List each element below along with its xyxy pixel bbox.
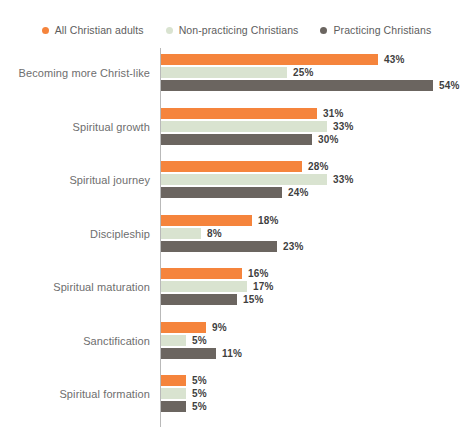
bar-row-non-practicing-christians: 5% — [161, 335, 473, 346]
bar-row-practicing-christians: 23% — [161, 241, 473, 252]
bar-row-non-practicing-christians: 8% — [161, 228, 473, 239]
bar-all-christian-adults[interactable] — [161, 375, 186, 386]
bar-group-spiritual-growth: Spiritual growth31%33%30% — [0, 106, 473, 148]
bar-group-spiritual-maturation: Spiritual maturation16%17%15% — [0, 266, 473, 308]
bar-group-bars: 5%5%5% — [161, 373, 473, 415]
bar-non-practicing-christians[interactable] — [161, 228, 201, 239]
bar-value-label: 33% — [333, 173, 354, 186]
category-label: Sanctification — [0, 320, 150, 362]
bar-value-label: 23% — [283, 240, 304, 253]
bar-row-all-christian-adults: 28% — [161, 161, 473, 172]
bar-row-non-practicing-christians: 33% — [161, 174, 473, 185]
bar-value-label: 18% — [258, 214, 279, 227]
legend-item-non-practicing-christians[interactable]: Non-practicing Christians — [166, 24, 299, 36]
bar-group-bars: 9%5%11% — [161, 320, 473, 362]
legend-dot-icon — [42, 27, 49, 34]
bar-value-label: 5% — [192, 387, 207, 400]
legend-item-label: Practicing Christians — [333, 24, 431, 36]
legend-item-practicing-christians[interactable]: Practicing Christians — [320, 24, 431, 36]
category-label: Spiritual journey — [0, 159, 150, 201]
bar-group-bars: 16%17%15% — [161, 266, 473, 308]
bar-value-label: 16% — [248, 267, 269, 280]
bar-group-sanctification: Sanctification9%5%11% — [0, 320, 473, 362]
legend-item-label: All Christian adults — [55, 24, 144, 36]
bar-value-label: 5% — [192, 334, 207, 347]
bar-row-all-christian-adults: 31% — [161, 108, 473, 119]
category-label: Spiritual formation — [0, 373, 150, 415]
bar-group-bars: 43%25%54% — [161, 52, 473, 94]
bar-value-label: 31% — [323, 107, 344, 120]
bar-value-label: 15% — [243, 293, 264, 306]
bar-non-practicing-christians[interactable] — [161, 67, 287, 78]
bar-practicing-christians[interactable] — [161, 241, 277, 252]
bar-row-all-christian-adults: 43% — [161, 54, 473, 65]
bar-all-christian-adults[interactable] — [161, 54, 378, 65]
bar-practicing-christians[interactable] — [161, 401, 186, 412]
bar-value-label: 25% — [293, 66, 314, 79]
chart-plot-area: Becoming more Christ-like43%25%54%Spirit… — [0, 46, 473, 428]
bar-all-christian-adults[interactable] — [161, 268, 242, 279]
bar-value-label: 54% — [439, 79, 460, 92]
bar-row-practicing-christians: 24% — [161, 187, 473, 198]
bar-group-spiritual-journey: Spiritual journey28%33%24% — [0, 159, 473, 201]
bar-value-label: 43% — [384, 53, 405, 66]
bar-non-practicing-christians[interactable] — [161, 388, 186, 399]
bar-value-label: 17% — [253, 280, 274, 293]
legend-item-label: Non-practicing Christians — [179, 24, 299, 36]
category-label: Becoming more Christ-like — [0, 52, 150, 94]
bar-non-practicing-christians[interactable] — [161, 174, 327, 185]
bar-practicing-christians[interactable] — [161, 80, 433, 91]
category-label: Spiritual maturation — [0, 266, 150, 308]
bar-row-non-practicing-christians: 5% — [161, 388, 473, 399]
bar-value-label: 30% — [318, 133, 339, 146]
legend-item-all-christian-adults[interactable]: All Christian adults — [42, 24, 144, 36]
bar-all-christian-adults[interactable] — [161, 215, 252, 226]
legend-dot-icon — [320, 27, 327, 34]
bar-value-label: 11% — [222, 347, 242, 360]
bar-all-christian-adults[interactable] — [161, 322, 206, 333]
bar-row-non-practicing-christians: 17% — [161, 281, 473, 292]
bar-value-label: 9% — [212, 321, 227, 334]
category-label: Discipleship — [0, 213, 150, 255]
bar-practicing-christians[interactable] — [161, 187, 282, 198]
bar-group-spiritual-formation: Spiritual formation5%5%5% — [0, 373, 473, 415]
bar-row-practicing-christians: 30% — [161, 134, 473, 145]
bar-practicing-christians[interactable] — [161, 134, 312, 145]
bar-row-all-christian-adults: 5% — [161, 375, 473, 386]
category-label: Spiritual growth — [0, 106, 150, 148]
bar-value-label: 8% — [207, 227, 222, 240]
bar-all-christian-adults[interactable] — [161, 161, 302, 172]
legend-dot-icon — [166, 27, 173, 34]
bar-non-practicing-christians[interactable] — [161, 281, 247, 292]
bar-group-becoming-more-christ-like: Becoming more Christ-like43%25%54% — [0, 52, 473, 94]
bar-row-practicing-christians: 11% — [161, 348, 473, 359]
chart-legend: All Christian adults Non-practicing Chri… — [0, 20, 473, 40]
bar-row-all-christian-adults: 18% — [161, 215, 473, 226]
bar-row-all-christian-adults: 16% — [161, 268, 473, 279]
bar-group-bars: 28%33%24% — [161, 159, 473, 201]
bar-group-bars: 31%33%30% — [161, 106, 473, 148]
bar-value-label: 5% — [192, 374, 207, 387]
bar-row-non-practicing-christians: 33% — [161, 121, 473, 132]
bar-group-bars: 18%8%23% — [161, 213, 473, 255]
chart-page: All Christian adults Non-practicing Chri… — [0, 0, 473, 440]
bar-value-label: 28% — [308, 160, 329, 173]
bar-row-practicing-christians: 54% — [161, 80, 473, 91]
bar-row-practicing-christians: 5% — [161, 401, 473, 412]
bar-row-all-christian-adults: 9% — [161, 322, 473, 333]
bar-value-label: 5% — [192, 400, 207, 413]
bar-value-label: 33% — [333, 120, 354, 133]
bar-value-label: 24% — [288, 186, 309, 199]
bar-non-practicing-christians[interactable] — [161, 335, 186, 346]
bar-group-discipleship: Discipleship18%8%23% — [0, 213, 473, 255]
bar-practicing-christians[interactable] — [161, 348, 216, 359]
bar-non-practicing-christians[interactable] — [161, 121, 327, 132]
bar-row-non-practicing-christians: 25% — [161, 67, 473, 78]
bar-row-practicing-christians: 15% — [161, 294, 473, 305]
bar-all-christian-adults[interactable] — [161, 108, 317, 119]
bar-practicing-christians[interactable] — [161, 294, 237, 305]
